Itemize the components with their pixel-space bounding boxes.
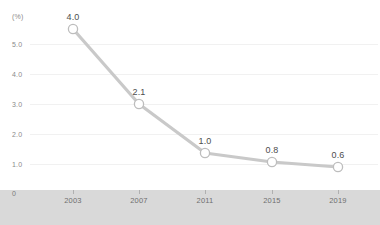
data-point-marker [200,148,209,157]
data-point-marker [134,99,143,108]
data-point-label: 2.1 [132,87,145,97]
x-axis-tick-mark [139,190,140,194]
x-axis-tick-label: 2019 [329,196,347,205]
x-axis-tick-label: 2011 [197,196,214,205]
y-axis-zero-label: 0 [12,190,16,197]
data-point-label: 0.6 [331,150,344,160]
x-axis-tick-mark [272,190,273,194]
x-axis-tick-label: 2007 [130,196,148,205]
data-point-label: 1.0 [198,136,211,146]
x-axis-band [0,190,380,225]
series-markers [68,24,342,171]
x-axis-tick-mark [73,190,74,194]
data-point-label: 4.0 [66,12,79,22]
x-axis-tick-mark [205,190,206,194]
data-point-marker [267,157,276,166]
series-line [73,29,338,167]
x-axis-tick-label: 2003 [64,196,82,205]
x-axis-tick-mark [338,190,339,194]
line-chart: (%) 5.04.03.02.01.0 4.02.11.00.80.6 0 20… [0,0,380,225]
x-axis-tick-label: 2015 [263,196,281,205]
data-point-marker [68,24,77,33]
data-point-label: 0.8 [265,145,278,155]
data-point-marker [333,162,342,171]
